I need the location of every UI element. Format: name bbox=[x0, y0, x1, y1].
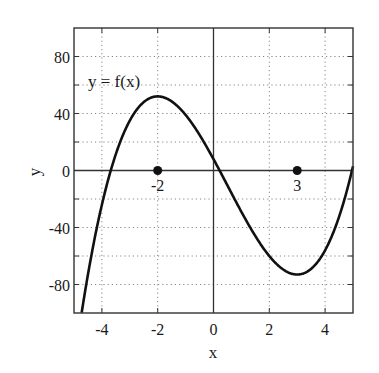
function-plot: -4-2024-80-4004080 -23 y = f(x) x y bbox=[0, 0, 379, 373]
y-tick-label: -80 bbox=[49, 277, 70, 294]
x-axis-label: x bbox=[209, 343, 218, 362]
critical-point-marker bbox=[293, 166, 302, 175]
critical-point-marker bbox=[153, 166, 162, 175]
critical-point-label: 3 bbox=[293, 177, 301, 194]
curve-label: y = f(x) bbox=[88, 72, 140, 91]
critical-point-label: -2 bbox=[151, 177, 164, 194]
x-tick-label: -2 bbox=[151, 321, 164, 338]
x-tick-label: 4 bbox=[321, 321, 329, 338]
y-tick-label: 0 bbox=[62, 163, 70, 180]
x-tick-label: -4 bbox=[95, 321, 108, 338]
x-tick-label: 0 bbox=[210, 321, 218, 338]
curve-f-of-x bbox=[82, 96, 353, 312]
y-axis-label: y bbox=[25, 167, 44, 176]
x-tick-label: 2 bbox=[265, 321, 273, 338]
y-tick-label: -40 bbox=[49, 220, 70, 237]
tick-labels: -4-2024-80-4004080 bbox=[49, 49, 329, 339]
y-tick-label: 80 bbox=[54, 49, 70, 66]
y-tick-label: 40 bbox=[54, 106, 70, 123]
